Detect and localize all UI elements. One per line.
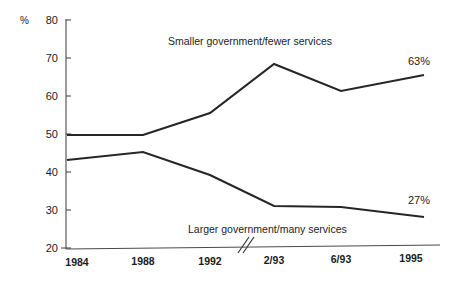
y-tick-label-50: 50 — [46, 128, 58, 140]
series-line-larger-government — [67, 152, 424, 217]
x-tick-label-1988: 1988 — [131, 255, 155, 267]
value-label-63-percent: 63% — [408, 55, 430, 67]
line-chart: % 80 70 60 50 40 30 20 1984 1988 1992 2/… — [0, 0, 449, 281]
y-tick-label-30: 30 — [46, 204, 58, 216]
x-tick-label-1984: 1984 — [65, 256, 89, 268]
x-tick-label-2-93: 2/93 — [264, 254, 285, 266]
y-tick-label-60: 60 — [46, 90, 58, 102]
value-label-27-percent: 27% — [408, 194, 430, 206]
y-tick-label-40: 40 — [46, 166, 58, 178]
y-axis-unit-label: % — [20, 15, 29, 26]
x-tick-label-1992: 1992 — [198, 255, 222, 267]
y-tick-label-80: 80 — [46, 14, 58, 26]
x-axis-line — [66, 245, 440, 249]
x-tick-label-6-93: 6/93 — [331, 253, 352, 265]
y-tick-label-20: 20 — [46, 242, 58, 254]
axis-break-icon — [238, 237, 254, 253]
annotation-smaller-government: Smaller government/fewer services — [168, 35, 332, 47]
x-tick-label-1995: 1995 — [399, 252, 423, 264]
annotation-larger-government: Larger government/many services — [188, 223, 347, 235]
y-tick-label-70: 70 — [46, 52, 58, 64]
chart-canvas: % 80 70 60 50 40 30 20 1984 1988 1992 2/… — [0, 0, 449, 281]
series-line-smaller-government — [67, 64, 424, 135]
